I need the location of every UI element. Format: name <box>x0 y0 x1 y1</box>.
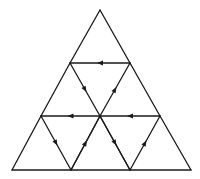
arrowhead-icon <box>97 61 103 66</box>
triangle-diagram <box>0 0 200 179</box>
arrowhead-icon <box>127 114 133 119</box>
edge-l3_left-b0 <box>12 116 41 170</box>
edges-layer <box>12 10 191 170</box>
edge-apex-l2_right <box>100 10 130 63</box>
arrowhead-icon <box>111 139 118 147</box>
arrows-layer <box>52 61 148 147</box>
arrowhead-icon <box>68 114 74 119</box>
edge-l3_right-b3 <box>160 116 191 170</box>
arrowhead-icon <box>141 139 148 147</box>
edge-l2_left-l3_left <box>41 63 70 116</box>
edge-l2_right-l3_right <box>130 63 160 116</box>
arrowhead-icon <box>81 86 88 94</box>
arrowhead-icon <box>52 139 59 147</box>
arrowhead-icon <box>111 86 118 94</box>
arrowhead-icon <box>82 139 89 147</box>
edge-apex-l2_left <box>70 10 100 63</box>
